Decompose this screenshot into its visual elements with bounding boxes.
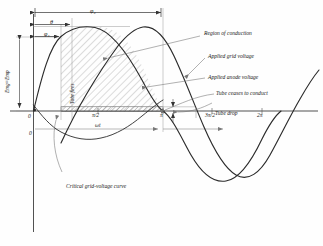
tick-label-pi-over-2: π/2 [92,113,99,119]
label-x-axis: ωt [95,123,101,129]
label-second-origin: 0 [29,131,32,137]
label-origin: 0 [28,114,31,120]
leader-applied-anode-voltage [147,78,205,87]
label-dimension-phi2: φ₂ [90,8,96,14]
tick-label-3pi-over-2: 3π/2 [205,113,215,119]
label-region-of-conduction: Region of conduction [204,31,252,37]
tick-label-2pi: 2π [257,113,263,119]
leader-applied-grid-voltage [189,58,205,74]
label-tube-fires: Tube fires [70,84,75,104]
tube-fires-marker [33,108,36,111]
leader-tube-ceases-to-conduct [165,94,214,110]
label-dimension-theta: θ [50,19,53,25]
label-dimension-phi1: φ₁ [44,31,50,37]
label-applied-grid-voltage: Applied grid voltage [208,54,254,60]
label-tube-ceases-to-conduct: Tube ceases to conduct [216,91,268,97]
label-tube-drop: Tube drop [215,111,238,117]
tick-label-pi: π [160,113,163,119]
label-critical-grid-voltage-curve: Critical grid-voltage curve [66,184,126,190]
label-y-axis: Emg=Emp [5,70,10,93]
figure-canvas: Region of conduction Applied grid voltag… [0,0,323,246]
region-of-conduction-shading [61,26,163,110]
label-applied-anode-voltage: Applied anode voltage [208,75,258,81]
